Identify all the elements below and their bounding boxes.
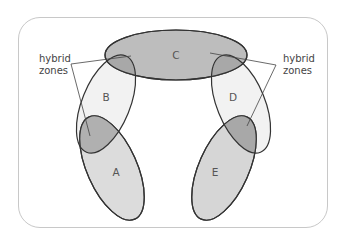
label-d: D [229, 91, 237, 103]
label-e: E [212, 166, 219, 178]
label-a: A [112, 166, 120, 178]
hybrid-zones-right-line2: zones [283, 65, 312, 76]
label-b: B [102, 91, 109, 103]
hybrid-zones-left-line2: zones [39, 65, 68, 76]
label-c: C [172, 49, 179, 61]
hybrid-zones-left-line1: hybrid [39, 53, 71, 64]
hybrid-zones-right-line1: hybrid [283, 53, 315, 64]
ring-species-diagram: C B D A E hybrid zones hybrid zones [0, 0, 347, 243]
